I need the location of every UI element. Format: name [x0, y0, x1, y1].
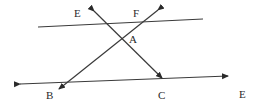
geometry-diagram: E F A B C E: [0, 0, 257, 102]
label-f: F: [133, 7, 139, 19]
label-a: A: [129, 33, 137, 45]
label-c: C: [158, 89, 165, 101]
bottom-line: [20, 76, 228, 84]
transversal-fb: [59, 10, 158, 89]
diagram-canvas: E F A B C E: [0, 0, 257, 102]
label-e-top: E: [74, 7, 81, 19]
top-line: [38, 19, 203, 27]
label-e-right: E: [239, 88, 246, 100]
label-b: B: [46, 89, 53, 101]
